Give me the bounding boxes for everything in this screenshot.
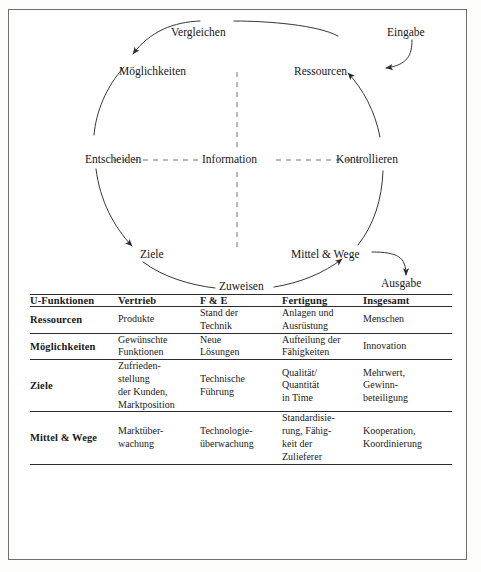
arc-entscheiden-ziele xyxy=(96,169,132,246)
cell-ressourcen-vertrieb: Produkte xyxy=(118,307,200,334)
row-header-moeglichkeiten: Möglichkeiten xyxy=(30,333,118,360)
diagram-label-ressourcen: Ressourcen xyxy=(294,66,347,78)
table-row: Ziele Zufrieden- stellung der Kunden, Ma… xyxy=(30,360,452,412)
arc-vergleichen-right xyxy=(234,21,338,36)
table-row: Möglichkeiten Gewünschte Funktionen Neue… xyxy=(30,333,452,360)
cell-ziele-vertrieb: Zufrieden- stellung der Kunden, Marktpos… xyxy=(118,360,200,412)
table-header-row: U-Funktionen Vertrieb F & E Fertigung In… xyxy=(30,295,452,307)
row-header-ziele: Ziele xyxy=(30,360,118,412)
cell-mittel-wege-vertrieb: Marktüber- wachung xyxy=(118,412,200,464)
diagram-label-entscheiden: Entscheiden xyxy=(85,154,141,166)
page-root: Vergleichen Möglichkeiten Ressourcen Ein… xyxy=(0,0,481,572)
diagram-label-eingabe: Eingabe xyxy=(387,27,425,39)
cell-moeglichkeiten-fue: Neue Lösungen xyxy=(200,333,282,360)
cell-ziele-fue: Technische Führung xyxy=(200,360,282,412)
management-cycle-diagram: Vergleichen Möglichkeiten Ressourcen Ein… xyxy=(8,9,469,294)
cell-mittel-wege-fue: Technologie- überwachung xyxy=(200,412,282,464)
arc-mittelwege-kontrollieren xyxy=(358,171,383,245)
diagram-label-mittel-wege: Mittel & Wege xyxy=(291,249,360,261)
diagram-label-ziele: Ziele xyxy=(140,249,164,261)
diagram-label-information: Information xyxy=(202,154,257,166)
cell-mittel-wege-insgesamt: Kooperation, Koordinierung xyxy=(363,412,452,464)
arc-ausgabe-outflow xyxy=(372,252,406,275)
arc-kontrollieren-ressourcen xyxy=(348,73,380,137)
cell-moeglichkeiten-vertrieb: Gewünschte Funktionen xyxy=(118,333,200,360)
row-header-mittel-wege: Mittel & Wege xyxy=(30,412,118,464)
row-header-ressourcen: Ressourcen xyxy=(30,307,118,334)
cell-ressourcen-fue: Stand der Technik xyxy=(200,307,282,334)
column-header-insgesamt: Insgesamt xyxy=(363,295,452,307)
table-row: Mittel & Wege Marktüber- wachung Technol… xyxy=(30,412,452,464)
arc-eingabe-inflow xyxy=(386,40,412,68)
diagram-label-zuweisen: Zuweisen xyxy=(219,281,264,293)
cell-mittel-wege-fertigung: Standardisie- rung, Fähig- keit der Zuli… xyxy=(282,412,363,464)
arc-ziele-zuweisen xyxy=(143,262,215,288)
table-row: Ressourcen Produkte Stand der Technik An… xyxy=(30,307,452,334)
diagram-label-vergleichen: Vergleichen xyxy=(171,27,226,39)
cell-ziele-fertigung: Qualität/ Quantität in Time xyxy=(282,360,363,412)
column-header-fertigung: Fertigung xyxy=(282,295,363,307)
cell-ressourcen-insgesamt: Menschen xyxy=(363,307,452,334)
diagram-label-kontrollieren: Kontrollieren xyxy=(336,154,398,166)
arc-zuweisen-mittelwege xyxy=(274,259,342,287)
cell-ressourcen-fertigung: Anlagen und Ausrüstung xyxy=(282,307,363,334)
column-header-u-funktionen: U-Funktionen xyxy=(30,295,118,307)
diagram-label-moeglichkeiten: Möglichkeiten xyxy=(119,66,186,78)
u-funktionen-matrix: U-Funktionen Vertrieb F & E Fertigung In… xyxy=(30,294,452,465)
column-header-vertrieb: Vertrieb xyxy=(118,295,200,307)
cell-ziele-insgesamt: Mehrwert, Gewinn- beteiligung xyxy=(363,360,452,412)
column-header-f-und-e: F & E xyxy=(200,295,282,307)
cell-moeglichkeiten-fertigung: Aufteilung der Fähigkeiten xyxy=(282,333,363,360)
diagram-canvas xyxy=(8,9,469,294)
cell-moeglichkeiten-insgesamt: Innovation xyxy=(363,333,452,360)
diagram-label-ausgabe: Ausgabe xyxy=(381,278,421,290)
